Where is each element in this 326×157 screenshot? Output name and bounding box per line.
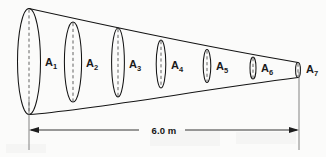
arrow-right-icon	[289, 127, 299, 133]
dimension-label: 6.0 m	[152, 125, 177, 136]
area-label-A2: A2	[86, 57, 98, 72]
diagram-canvas: A1 A2 A3 A4 A5 A6 A7 6.0 m	[0, 0, 326, 157]
dimension-line-group: 6.0 m	[29, 125, 299, 136]
cross-section-ellipse-A5	[203, 50, 211, 83]
area-label-A7: A7	[306, 63, 318, 78]
area-label-A5: A5	[216, 60, 228, 75]
taper-top-edge	[29, 9, 298, 63]
area-label-A1: A1	[45, 56, 57, 71]
arrow-left-icon	[29, 127, 39, 133]
cross-section-ellipse-A3	[112, 28, 125, 97]
area-label-A3: A3	[129, 58, 141, 73]
cone-cross-section-figure: A1 A2 A3 A4 A5 A6 A7 6.0 m	[0, 0, 326, 157]
area-label-A6: A6	[261, 62, 273, 77]
cross-section-ellipses	[18, 9, 301, 115]
area-label-A4: A4	[171, 59, 184, 74]
